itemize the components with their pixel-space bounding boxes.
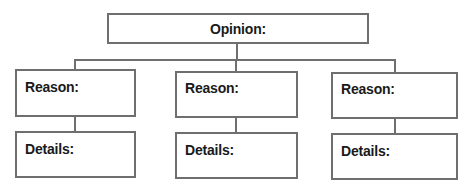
details-box-1: Details: [15,131,136,178]
reason-details-connector-2 [235,118,237,133]
reason-details-connector-3 [394,119,396,134]
root-connector-vertical [236,44,238,60]
opinion-box: Opinion: [107,13,369,44]
details-box-3: Details: [331,133,458,180]
reason-label-1: Reason: [25,79,79,95]
reason-label-3: Reason: [341,81,395,97]
reason-box-2: Reason: [175,71,298,118]
details-label-2: Details: [185,142,234,158]
details-box-2: Details: [175,132,298,179]
reason-box-3: Reason: [331,72,458,119]
details-label-1: Details: [25,141,74,157]
reason-label-2: Reason: [185,80,239,96]
details-label-3: Details: [341,143,390,159]
reason-details-connector-1 [74,117,76,132]
opinion-label: Opinion: [109,21,367,37]
branch-3-drop [394,59,396,72]
branch-2-drop [235,59,237,71]
reason-box-1: Reason: [15,69,136,117]
